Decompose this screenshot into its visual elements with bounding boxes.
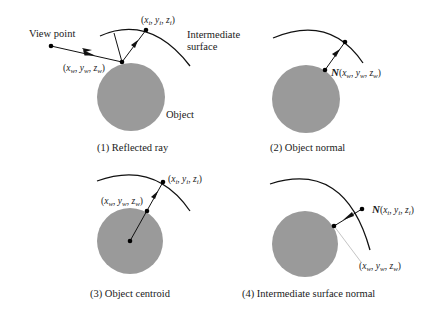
- panel-object-normal: N(xw, yw, zw) (2) Object normal: [270, 30, 381, 154]
- caption-object-centroid: (3) Object centroid: [90, 288, 171, 300]
- panel-object-centroid: (xw, yw, zw) (xi, yi, zi) (3) Object cen…: [90, 174, 202, 300]
- intermediate-surface-arc: [273, 30, 363, 63]
- intermediate-point-dot: [360, 207, 365, 212]
- surface-point-dot: [120, 60, 125, 65]
- intermediate-surface-label: Intermediate: [187, 29, 240, 40]
- normal-coord-label: N(xi, yi, zi): [371, 203, 414, 217]
- arrow-icon: [332, 49, 340, 57]
- surface-coord-label: (xw, yw, zw): [63, 63, 105, 75]
- view-point-dot: [49, 44, 54, 49]
- normal-coord-label: N(xw, yw, zw): [330, 66, 381, 80]
- centroid-dot: [128, 239, 133, 244]
- projection-guide-line: [334, 226, 361, 262]
- caption-intermediate-surface-normal: (4) Intermediate surface normal: [242, 288, 375, 300]
- panel-intermediate-surface-normal: N(xi, yi, zi) (xw, yw, zw) (4) Intermedi…: [242, 179, 414, 300]
- surface-coord-label: (xw, yw, zw): [101, 196, 143, 208]
- object-sphere: [272, 65, 340, 133]
- intermediate-point-dot: [343, 40, 348, 45]
- arrow-icon: [151, 191, 158, 199]
- projection-methods-diagram: View point (xw, yw, zw) (xi, yi, zi) Int…: [0, 0, 433, 321]
- intermediate-coord-label: (xi, yi, zi): [141, 15, 175, 27]
- caption-object-normal: (2) Object normal: [270, 142, 345, 154]
- intermediate-coord-label: (xi, yi, zi): [168, 174, 202, 186]
- panel-reflected-ray: View point (xw, yw, zw) (xi, yi, zi) Int…: [29, 15, 240, 154]
- object-sphere: [272, 211, 338, 277]
- surface-point-dot: [332, 224, 337, 229]
- view-point-label: View point: [29, 28, 75, 39]
- caption-reflected-ray: (1) Reflected ray: [97, 142, 169, 154]
- arrow-icon: [131, 40, 138, 48]
- intermediate-surface-label-2: surface: [187, 41, 218, 52]
- object-sphere: [97, 63, 165, 131]
- surface-normal-line: [114, 33, 122, 62]
- surface-coord-label: (xw, yw, zw): [359, 261, 401, 273]
- object-label: Object: [166, 109, 194, 120]
- surface-point-dot: [323, 68, 328, 73]
- intermediate-point-dot: [144, 28, 149, 33]
- surface-point-dot: [145, 209, 150, 214]
- arrow-icon: [343, 212, 354, 220]
- intermediate-point-dot: [161, 180, 166, 185]
